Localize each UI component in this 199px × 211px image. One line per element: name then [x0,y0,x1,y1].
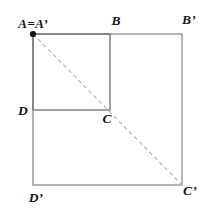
label-a-equals-a-prime: A=A’ [18,17,48,31]
vertex-a-point [30,31,36,37]
label-c-prime: C’ [183,184,197,198]
label-b: B [111,14,120,28]
diagram-canvas [0,0,199,211]
label-c: C [102,112,111,126]
label-d-prime: D’ [29,191,44,205]
label-d: D [18,104,28,118]
geometry-figure: A=A’ B B’ D C D’ C’ [0,0,199,211]
label-b-prime: B’ [182,13,196,27]
